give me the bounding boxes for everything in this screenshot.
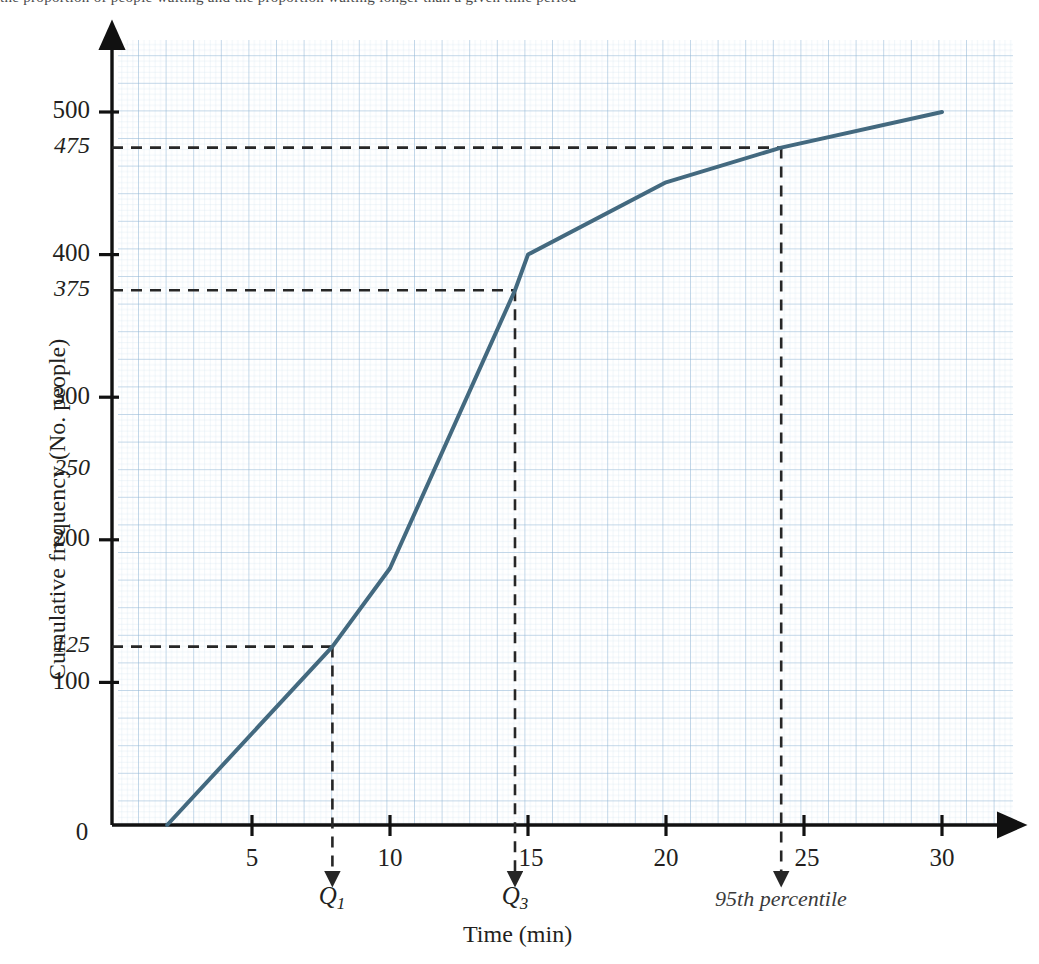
graph-paper-grid xyxy=(118,40,1013,825)
cumulative-frequency-chart xyxy=(0,0,1039,964)
y-annotation-label-475: 475 xyxy=(20,132,90,159)
marker-label-q3-subscript: 3 xyxy=(520,894,529,913)
marker-label-q3-letter: Q xyxy=(502,882,520,909)
marker-label-q3: Q3 xyxy=(475,882,555,914)
x-tick-label-25: 25 xyxy=(777,844,837,872)
marker-label-95th-percentile: 95th percentile xyxy=(671,886,891,912)
marker-label-q1-subscript: 1 xyxy=(337,894,346,913)
y-axis-ticks xyxy=(99,112,119,682)
y-axis-title: Cumulative frequency (No. people) xyxy=(44,339,71,680)
x-tick-label-10: 10 xyxy=(360,844,420,872)
x-tick-label-20: 20 xyxy=(636,844,696,872)
x-axis-title: Time (min) xyxy=(463,921,572,948)
marker-label-q1-letter: Q xyxy=(319,882,337,909)
x-tick-label-5: 5 xyxy=(222,844,282,872)
marker-label-q1: Q1 xyxy=(292,882,372,914)
figure-page: the proportion of people waiting and the… xyxy=(0,0,1039,964)
y-tick-label-400: 400 xyxy=(20,239,90,267)
y-tick-label-500: 500 xyxy=(20,96,90,124)
x-tick-label-30: 30 xyxy=(912,844,972,872)
y-annotation-label-375: 375 xyxy=(20,275,90,302)
x-tick-label-15: 15 xyxy=(501,844,561,872)
origin-label: 0 xyxy=(62,818,102,846)
